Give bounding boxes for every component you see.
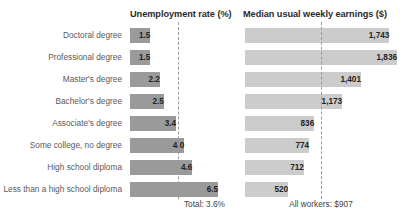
earnings-reference-line [321, 22, 322, 199]
earnings-bar-value-label: 1,401 [245, 72, 365, 87]
category-label: Professional degree [0, 46, 125, 68]
unemployment-total-footnote: Total: 3.6% [130, 199, 225, 209]
category-label: High school diploma [0, 156, 125, 178]
bar-row: 836 [245, 112, 403, 134]
unemployment-bar-value-label: 3.4 [130, 116, 180, 131]
earnings-plot-area: 1,7431,8361,4011,173836774712520 [245, 24, 403, 200]
earnings-bar-value-label: 774 [245, 138, 313, 153]
bar-row: 1,173 [245, 90, 403, 112]
unemployment-bar-value-label: 1.5 [130, 28, 154, 43]
unemployment-bar-value-label: 4.6 [130, 160, 196, 175]
earnings-bar-value-label: 1,173 [245, 94, 346, 109]
earnings-bar-value-label: 1,743 [245, 28, 393, 43]
unemployment-bar-value-label: 2.2 [130, 72, 164, 87]
bar-row: 712 [245, 156, 403, 178]
unemployment-reference-line [178, 22, 179, 199]
category-label: Some college, no degree [0, 134, 125, 156]
earnings-panel-title: Median usual weekly earnings ($) [243, 9, 387, 19]
bar-row: 1,743 [245, 24, 403, 46]
category-label-column: Doctoral degree Professional degree Mast… [0, 24, 125, 200]
earnings-bar-value-label: 1,836 [245, 50, 401, 65]
bar-row: 1,836 [245, 46, 403, 68]
category-label: Master's degree [0, 68, 125, 90]
unemployment-bar-value-label: 4.0 [130, 138, 188, 153]
unemployment-bar-value-label: 6.5 [130, 182, 222, 197]
earnings-allworkers-footnote: All workers: $907 [235, 199, 406, 209]
unemployment-bar-value-label: 1.5 [130, 50, 154, 65]
unemployment-panel-title: Unemployment rate (%) [130, 9, 232, 19]
category-label: Doctoral degree [0, 24, 125, 46]
earnings-bar-value-label: 836 [245, 116, 318, 131]
category-label: Less than a high school diploma [0, 178, 125, 200]
earnings-bar-value-label: 712 [245, 160, 308, 175]
unemployment-bar-value-label: 2.5 [130, 94, 168, 109]
category-label: Bachelor's degree [0, 90, 125, 112]
education-pays-chart: Unemployment rate (%) Median usual weekl… [0, 0, 406, 213]
bar-row: 774 [245, 134, 403, 156]
bar-row: 520 [245, 178, 403, 200]
bar-row: 1,401 [245, 68, 403, 90]
earnings-bar-value-label: 520 [245, 182, 292, 197]
category-label: Associate's degree [0, 112, 125, 134]
